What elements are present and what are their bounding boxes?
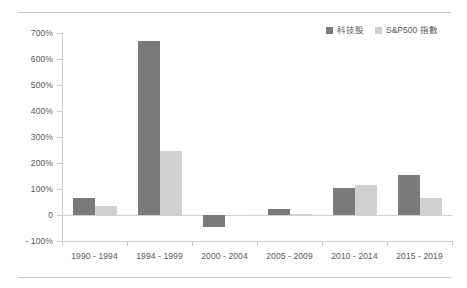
y-axis-label: 700% (31, 28, 53, 38)
bar-tech (268, 209, 290, 216)
y-tick-300 (57, 137, 62, 138)
legend-swatch-icon (375, 27, 382, 34)
y-tick-100 (57, 189, 62, 190)
x-tick (257, 241, 258, 246)
y-tick-500 (57, 85, 62, 86)
y-axis-label: 600% (31, 54, 53, 64)
x-axis-label: 2005 - 2009 (257, 251, 322, 261)
bar-tech (333, 188, 355, 215)
legend-item-tech[interactable]: 科技股 (326, 25, 364, 35)
y-tick-600 (57, 59, 62, 60)
bar-tech (138, 41, 160, 215)
zero-line (62, 215, 452, 216)
y-axis-line (62, 33, 63, 241)
y-axis-label: 200% (31, 158, 53, 168)
bar-sp500 (160, 151, 182, 215)
y-axis-label: 500% (31, 80, 53, 90)
x-tick (127, 241, 128, 246)
bar-tech (398, 175, 420, 215)
y-tick-200 (57, 163, 62, 164)
chart-legend: 科技股S&P500 指數 (326, 25, 438, 35)
x-tick (322, 241, 323, 246)
bar-sp500 (355, 185, 377, 215)
x-tick (387, 241, 388, 246)
bar-tech (203, 215, 225, 227)
chart-page: 700%600%500%400%300%200%100%0- 100% 1990… (0, 0, 467, 288)
y-axis-label: 100% (31, 184, 53, 194)
x-axis-label: 2010 - 2014 (322, 251, 387, 261)
x-tick (452, 241, 453, 246)
x-axis-label: 2015 - 2019 (387, 251, 452, 261)
grouped-bar-chart: 700%600%500%400%300%200%100%0- 100% 1990… (0, 0, 467, 288)
legend-label: 科技股 (337, 25, 364, 35)
y-axis-label: 300% (31, 132, 53, 142)
bar-sp500 (95, 206, 117, 215)
bar-sp500 (225, 215, 247, 216)
x-axis-label: 2000 - 2004 (192, 251, 257, 261)
x-tick (62, 241, 63, 246)
bar-tech (73, 198, 95, 215)
y-axis-label: 400% (31, 106, 53, 116)
y-tick-400 (57, 111, 62, 112)
legend-item-sp500[interactable]: S&P500 指數 (375, 25, 438, 35)
x-tick (192, 241, 193, 246)
legend-label: S&P500 指數 (386, 25, 438, 35)
y-tick-700 (57, 33, 62, 34)
y-axis-label: 0 (48, 210, 53, 220)
bar-sp500 (420, 198, 442, 215)
x-axis-label: 1990 - 1994 (62, 251, 127, 261)
bar-sp500 (290, 214, 312, 215)
y-axis-label: - 100% (25, 236, 53, 246)
x-axis-label: 1994 - 1999 (127, 251, 192, 261)
legend-swatch-icon (326, 27, 333, 34)
